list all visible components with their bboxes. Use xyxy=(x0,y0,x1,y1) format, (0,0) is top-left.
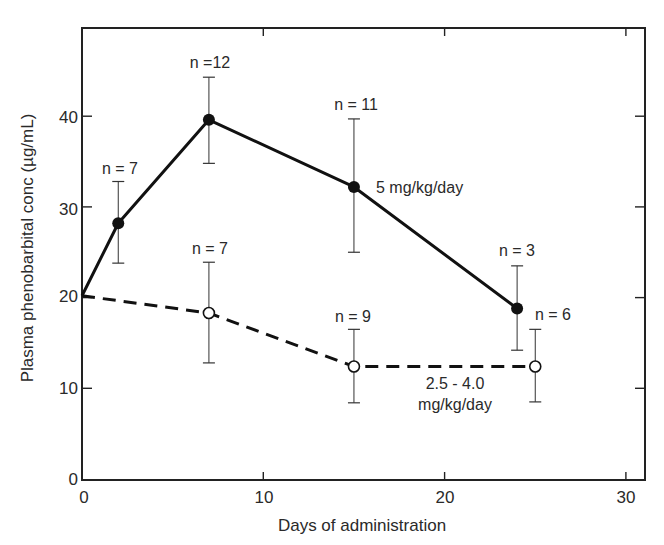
x-tick-10: 10 xyxy=(255,488,274,507)
y-tick-0: 0 xyxy=(69,470,78,489)
n-label-s2-day7: n = 7 xyxy=(192,240,228,257)
y-tick-labels: 0 10 20 30 40 xyxy=(59,108,78,489)
x-tick-30: 30 xyxy=(617,488,636,507)
n-label-s1-day7: n =12 xyxy=(190,54,231,71)
series-1-label: 5 mg/kg/day xyxy=(376,179,463,196)
filled-circle-marker xyxy=(203,114,215,126)
n-label-s1-day15: n = 11 xyxy=(334,96,378,113)
x-axis-title: Days of administration xyxy=(278,516,446,535)
y-tick-30: 30 xyxy=(59,200,78,219)
filled-circle-marker xyxy=(348,181,360,193)
n-label-s2-day15: n = 9 xyxy=(335,308,371,325)
open-circle-marker xyxy=(203,308,214,319)
y-axis-title: Plasma phenobarbital conc (µg/mL) xyxy=(18,114,37,383)
n-label-s2-day25: n = 6 xyxy=(535,306,571,323)
filled-circle-marker xyxy=(112,217,124,229)
y-tick-40: 40 xyxy=(59,108,78,127)
filled-circle-marker xyxy=(511,302,523,314)
phenobarbital-chart: 0 10 20 30 40 0 10 20 30 Days of adminis… xyxy=(0,0,664,545)
x-tick-labels: 0 10 20 30 xyxy=(79,488,635,507)
y-tick-20: 20 xyxy=(59,287,78,306)
open-circle-marker xyxy=(348,361,359,372)
n-annotations: n = 7 n =12 n = 11 n = 3 n = 7 n = 9 n =… xyxy=(102,54,571,325)
series-2-label-line2: mg/kg/day xyxy=(418,396,492,413)
n-label-s1-day24: n = 3 xyxy=(499,242,535,259)
series-2-label-line1: 2.5 - 4.0 xyxy=(426,375,485,392)
series-5-mg-kg-day xyxy=(82,77,523,350)
open-circle-marker xyxy=(530,361,541,372)
n-label-s1-day2: n = 7 xyxy=(102,160,138,177)
series-line xyxy=(82,120,517,309)
y-tick-10: 10 xyxy=(59,379,78,398)
x-tick-0: 0 xyxy=(79,488,88,507)
x-tick-20: 20 xyxy=(436,488,455,507)
series-line xyxy=(82,296,535,367)
